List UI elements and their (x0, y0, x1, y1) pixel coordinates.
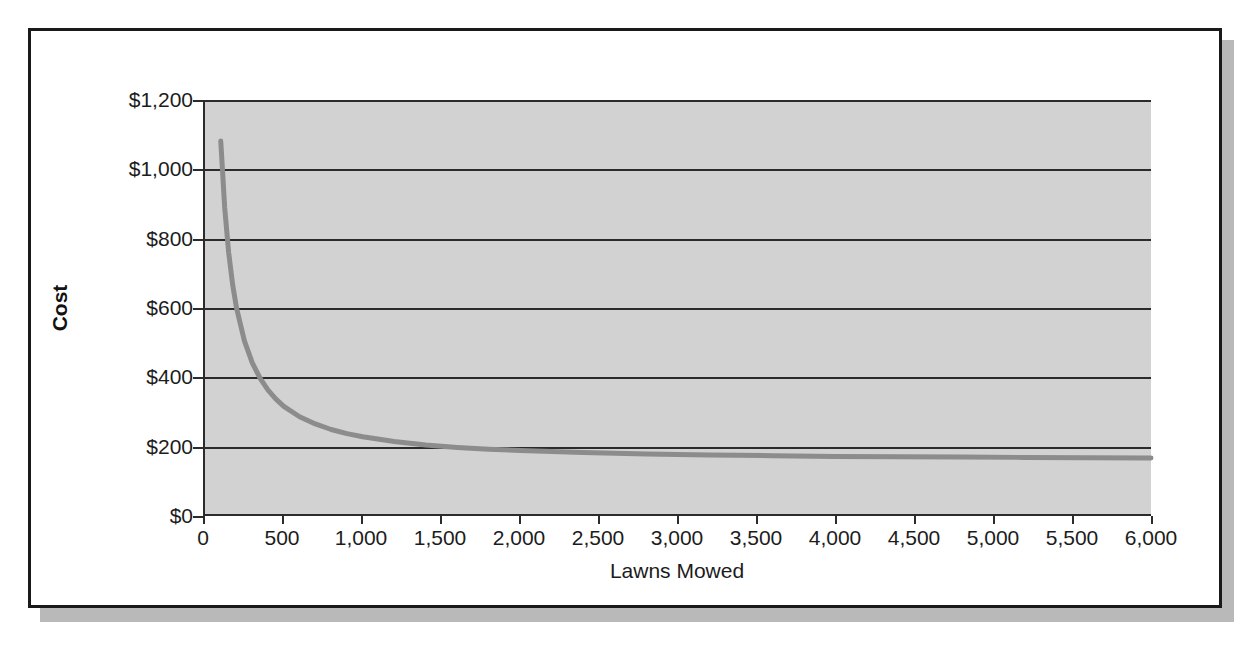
x-axis-tick-mark (203, 516, 205, 524)
series-line-average-cost (221, 141, 1151, 458)
x-axis-tick-label: 500 (264, 526, 299, 550)
x-axis-tick-label: 4,500 (888, 526, 941, 550)
cost-per-lawn-chart: Cost $1,200$1,000$800$600$400$200$0 0500… (31, 31, 1219, 605)
x-axis-tick-mark (1151, 516, 1153, 524)
y-axis-tick-mark (193, 377, 203, 379)
x-axis-tick-mark (677, 516, 679, 524)
x-axis-tick-mark (835, 516, 837, 524)
x-axis-title: Lawns Mowed (203, 559, 1151, 583)
x-axis-tick-mark (440, 516, 442, 524)
x-axis-tick-label: 0 (197, 526, 209, 550)
y-axis-tick-marks (31, 100, 203, 516)
x-axis-tick-label: 2,500 (572, 526, 625, 550)
x-axis-tick-mark (914, 516, 916, 524)
x-axis-tick-label: 3,500 (730, 526, 783, 550)
x-axis-tick-mark (361, 516, 363, 524)
x-axis-tick-mark (756, 516, 758, 524)
x-axis-tick-mark (993, 516, 995, 524)
x-axis-tick-labels: 05001,0001,5002,0002,5003,0003,5004,0004… (203, 526, 1151, 556)
x-axis-tick-marks (203, 516, 1151, 526)
x-axis-tick-label: 2,000 (493, 526, 546, 550)
y-axis-tick-mark (193, 169, 203, 171)
x-axis-tick-label: 6,000 (1125, 526, 1178, 550)
x-axis-tick-mark (282, 516, 284, 524)
plot-area (203, 100, 1151, 516)
y-axis-tick-mark (193, 239, 203, 241)
x-axis-tick-mark (1072, 516, 1074, 524)
y-axis-tick-mark (193, 447, 203, 449)
x-axis-tick-label: 1,000 (335, 526, 388, 550)
x-axis-tick-label: 3,000 (651, 526, 704, 550)
x-axis-tick-mark (598, 516, 600, 524)
x-axis-tick-label: 5,000 (967, 526, 1020, 550)
x-axis-tick-label: 1,500 (414, 526, 467, 550)
series-curve-layer (205, 100, 1151, 514)
y-axis-tick-mark (193, 516, 203, 518)
figure-frame: Cost $1,200$1,000$800$600$400$200$0 0500… (28, 28, 1222, 608)
y-axis-tick-mark (193, 308, 203, 310)
y-axis-tick-mark (193, 100, 203, 102)
x-axis-tick-mark (519, 516, 521, 524)
x-axis-tick-label: 4,000 (809, 526, 862, 550)
x-axis-tick-label: 5,500 (1046, 526, 1099, 550)
